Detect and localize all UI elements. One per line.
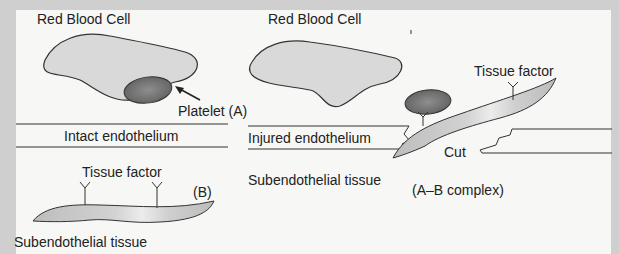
intact-endothelium-label: Intact endothelium [64,129,178,143]
b-label: (B) [193,185,212,199]
platelet-label: Platelet (A) [178,104,247,118]
ab-complex-label: (A–B complex) [412,183,504,197]
subendothelial-label-left: Subendothelial tissue [14,235,147,249]
exposed-tissue [393,78,556,158]
tissue-factor-icon [80,182,90,205]
coagulation-diagram [0,0,619,254]
tissue-factor-label-left: Tissue factor [82,165,162,179]
tissue-factor-icon [152,182,162,208]
red-blood-cell-left [44,34,198,100]
cut-label: Cut [444,145,466,159]
injured-endothelium-label: Injured endothelium [248,131,371,145]
red-blood-cell-right [249,41,401,107]
subendothelial-label-right: Subendothelial tissue [248,173,381,187]
rbc-label-left: Red Blood Cell [37,12,130,26]
subendothelial-tissue-b [33,201,214,222]
rbc-label-right: Red Blood Cell [268,12,361,26]
tissue-factor-label-right: Tissue factor [474,64,554,78]
